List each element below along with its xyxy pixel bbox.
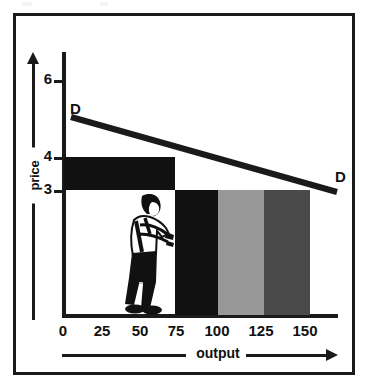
demand-label-right: D — [335, 168, 346, 185]
demand-label-left: D — [70, 100, 81, 117]
output-arrow-shaft-left — [62, 354, 190, 357]
output-axis-annotation: output — [60, 344, 340, 366]
man-pushing-icon — [112, 190, 178, 315]
x-tick-label-25: 25 — [82, 322, 122, 339]
y-tick-label-3: 3 — [26, 180, 52, 197]
x-tick-label-75: 75 — [156, 322, 196, 339]
x-tick-label-100: 100 — [197, 322, 237, 339]
bar-black — [175, 190, 218, 315]
x-tick-label-125: 125 — [241, 322, 281, 339]
output-arrow-shaft-right — [246, 354, 328, 357]
y-tick-mark — [54, 80, 63, 83]
revenue-rectangle — [64, 157, 175, 190]
x-axis-label: output — [186, 345, 250, 361]
y-tick-mark — [54, 157, 63, 160]
y-tick-label-4: 4 — [26, 147, 52, 164]
bar-light-gray — [218, 190, 264, 315]
arrow-right-icon — [326, 349, 338, 361]
scan-artifact — [22, 2, 32, 6]
bar-dark-gray — [264, 190, 310, 315]
y-tick-label-6: 6 — [26, 70, 52, 87]
y-tick-mark — [54, 190, 63, 193]
economics-demand-figure: price 6 4 3 — [0, 0, 370, 388]
x-tick-label-150: 150 — [285, 322, 325, 339]
x-tick-label-50: 50 — [120, 322, 160, 339]
scan-artifact — [100, 2, 108, 6]
x-tick-label-0: 0 — [43, 322, 83, 339]
